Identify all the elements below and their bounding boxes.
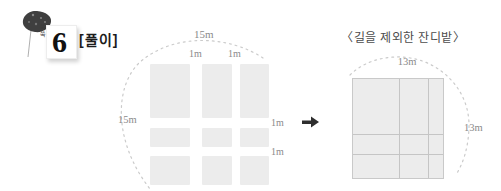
path-width-label-top-2: 1m	[228, 48, 241, 59]
path-width-label-right-1: 1m	[271, 117, 284, 128]
problem-number: 6	[52, 27, 67, 57]
seam-line-vertical	[428, 79, 429, 178]
lawn-patch	[202, 64, 232, 118]
right-arrow-icon	[302, 117, 319, 128]
path-width-label-top-1: 1m	[189, 48, 202, 59]
right-figure-right-height-label: 13m	[464, 122, 483, 133]
balloon-speck	[28, 21, 30, 23]
balloon-speck	[40, 17, 42, 19]
right-figure-caption: 〈길을 제외한 잔디밭〉	[338, 28, 468, 46]
balloon-speck	[32, 14, 34, 16]
lawn-patch	[240, 156, 269, 185]
balloon-speck	[35, 23, 37, 25]
seam-line-vertical	[399, 79, 400, 178]
seam-line-horizontal	[353, 134, 443, 135]
solution-label: [풀이]	[79, 29, 118, 49]
combined-lawn-square	[352, 78, 444, 179]
right-figure-top-width-label: 13m	[392, 56, 422, 67]
path-width-label-right-2: 1m	[271, 146, 284, 157]
left-figure-left-height-label: 15m	[118, 114, 137, 125]
lawn-patch	[150, 128, 190, 147]
lawn-patch	[240, 64, 269, 118]
left-figure-top-width-label: 15m	[194, 29, 214, 40]
lawn-patch	[240, 128, 269, 147]
balloon-speck	[44, 21, 46, 23]
balloon-string	[28, 30, 31, 57]
problem-number-card: 6	[46, 25, 77, 59]
lawn-patch	[150, 156, 190, 185]
lawn-patch	[202, 128, 232, 147]
lawn-patch	[150, 64, 190, 118]
seam-line-horizontal	[353, 154, 443, 155]
workbook-solution-snippet: 쑥쑥 6 [풀이] 15m 15m 1m 1m 1m 1m 〈길을 제외한 잔디…	[0, 0, 501, 191]
lawn-patch	[202, 156, 232, 185]
